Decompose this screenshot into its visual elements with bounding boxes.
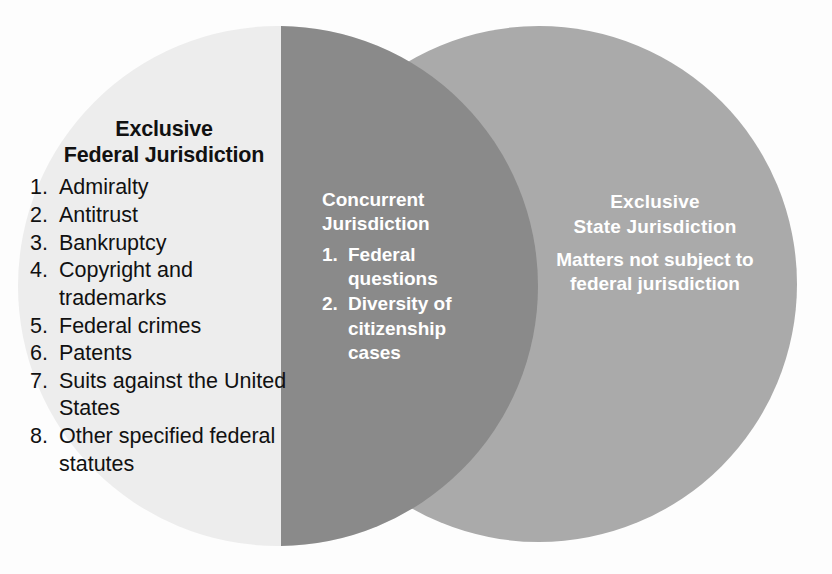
- list-item: 2. Antitrust: [30, 202, 298, 230]
- list-item-label: Federal questions: [348, 243, 482, 292]
- list-item-label: Other specified federal statutes: [59, 423, 298, 478]
- list-item-label: Suits against the United States: [59, 368, 298, 423]
- list-item-number: 1.: [322, 243, 348, 268]
- list-item: 6. Patents: [30, 340, 298, 368]
- list-item-label: Diversity of citizenship cases: [348, 292, 482, 366]
- list-item-label: Federal crimes: [59, 313, 298, 341]
- list-item-number: 2.: [322, 292, 348, 317]
- list-item-label: Bankruptcy: [59, 230, 298, 258]
- list-item: 3. Bankruptcy: [30, 230, 298, 258]
- venn-diagram: Exclusive Federal Jurisdiction 1. Admira…: [0, 0, 832, 574]
- right-title-line-2: State Jurisdiction: [520, 215, 790, 240]
- center-item-list: 1. Federal questions 2. Diversity of cit…: [322, 243, 482, 366]
- list-item-number: 1.: [30, 174, 59, 202]
- right-title-line-1: Exclusive: [520, 190, 790, 215]
- list-item-number: 8.: [30, 423, 59, 451]
- right-body-line-1: Matters not subject to: [520, 248, 790, 272]
- list-item: 7. Suits against the United States: [30, 368, 298, 423]
- list-item-label: Admiralty: [59, 174, 298, 202]
- list-item: 5. Federal crimes: [30, 313, 298, 341]
- list-item: 8. Other specified federal statutes: [30, 423, 298, 478]
- center-title-line-2: Jurisdiction: [322, 212, 482, 236]
- list-item-number: 4.: [30, 257, 59, 285]
- right-body-line-2: federal jurisdiction: [520, 272, 790, 296]
- list-item-number: 2.: [30, 202, 59, 230]
- label-group-exclusive-federal-jurisdiction: Exclusive Federal Jurisdiction 1. Admira…: [30, 116, 298, 478]
- list-item-number: 7.: [30, 368, 59, 396]
- list-item: 4. Copyright and trademarks: [30, 257, 298, 312]
- list-item-number: 5.: [30, 313, 59, 341]
- list-item-label: Patents: [59, 340, 298, 368]
- list-item-number: 6.: [30, 340, 59, 368]
- label-group-exclusive-state-jurisdiction: Exclusive State Jurisdiction Matters not…: [520, 190, 790, 296]
- right-title: Exclusive State Jurisdiction: [520, 190, 790, 239]
- list-item: 1. Federal questions: [322, 243, 482, 292]
- label-group-concurrent-jurisdiction: Concurrent Jurisdiction 1. Federal quest…: [322, 188, 482, 366]
- center-title: Concurrent Jurisdiction: [322, 188, 482, 236]
- left-title-line-1: Exclusive: [30, 116, 298, 142]
- list-item-number: 3.: [30, 230, 59, 258]
- left-title: Exclusive Federal Jurisdiction: [30, 116, 298, 168]
- list-item-label: Antitrust: [59, 202, 298, 230]
- left-item-list: 1. Admiralty 2. Antitrust 3. Bankruptcy …: [30, 174, 298, 478]
- left-title-line-2: Federal Jurisdiction: [30, 142, 298, 168]
- list-item-label: Copyright and trademarks: [59, 257, 298, 312]
- list-item: 2. Diversity of citizenship cases: [322, 292, 482, 366]
- list-item: 1. Admiralty: [30, 174, 298, 202]
- right-body: Matters not subject to federal jurisdict…: [520, 248, 790, 296]
- center-title-line-1: Concurrent: [322, 188, 482, 212]
